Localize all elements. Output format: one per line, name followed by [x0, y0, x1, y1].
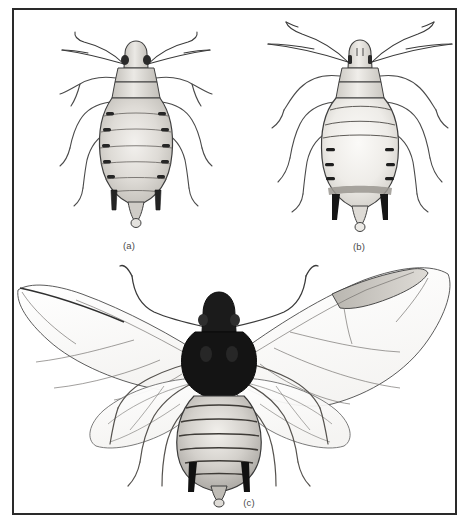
figure-plate: (a) (b) (c) — [0, 0, 473, 526]
aphid-b-body — [322, 40, 399, 232]
aphid-b-mesothorax — [336, 82, 384, 98]
plate-border: (a) (b) (c) — [12, 8, 457, 515]
aphid-a-eye-left — [121, 55, 129, 65]
aphid-c-head — [202, 292, 236, 332]
aphid-b-prothorax — [339, 68, 381, 82]
figure-a-apterous-aphid — [44, 20, 229, 235]
aphid-c-eye-right — [230, 314, 240, 326]
figure-caption-c: (c) — [219, 497, 279, 508]
aphid-c-thorax-lobe-right — [226, 346, 238, 362]
aphid-b-eye-left — [348, 55, 352, 64]
figure-c-alate-aphid — [14, 248, 455, 496]
figure-caption-b: (b) — [329, 241, 389, 252]
aphid-c-drawing — [14, 248, 455, 496]
aphid-a-eye-right — [143, 55, 151, 65]
aphid-c-thorax-lobe-left — [200, 346, 212, 362]
aphid-a-drawing — [44, 20, 229, 235]
aphid-b-eye-right — [368, 55, 372, 64]
aphid-b-head — [348, 40, 372, 68]
figure-b-apterous-aphid — [264, 18, 454, 236]
aphid-b-cauda-tip — [355, 223, 365, 232]
aphid-a-body — [100, 41, 173, 228]
aphid-a-prothorax — [115, 68, 157, 82]
aphid-b-drawing — [264, 18, 454, 236]
aphid-a-cauda-tip — [131, 219, 141, 228]
aphid-a-mesothorax — [112, 82, 160, 98]
aphid-a-head — [124, 41, 148, 68]
aphid-c-eye-left — [198, 314, 208, 326]
figure-caption-a: (a) — [99, 240, 159, 251]
